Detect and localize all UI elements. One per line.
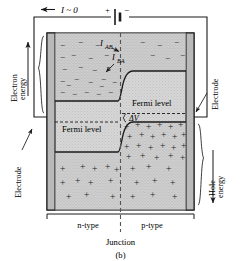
electrode-bar-right bbox=[186, 33, 194, 210]
svg-text:−: − bbox=[180, 50, 185, 60]
svg-text:−: − bbox=[108, 87, 113, 97]
svg-text:+: + bbox=[60, 164, 65, 174]
current-ab-subscript: AB bbox=[104, 43, 113, 50]
svg-text:+: + bbox=[84, 190, 89, 200]
svg-text:+: + bbox=[130, 164, 135, 174]
svg-text:−: − bbox=[72, 89, 77, 99]
svg-text:+: + bbox=[180, 153, 185, 163]
svg-text:+: + bbox=[170, 178, 175, 188]
svg-text:+: + bbox=[75, 176, 80, 186]
battery-plus-label: + bbox=[105, 6, 110, 15]
svg-text:+: + bbox=[150, 132, 155, 142]
svg-text:+: + bbox=[148, 143, 153, 153]
svg-text:+: + bbox=[110, 192, 115, 202]
svg-text:−: − bbox=[78, 62, 83, 72]
svg-text:+: + bbox=[135, 120, 140, 130]
svg-text:+: + bbox=[127, 132, 132, 142]
svg-text:+: + bbox=[160, 141, 165, 151]
svg-text:+: + bbox=[80, 162, 85, 172]
svg-text:+: + bbox=[139, 130, 144, 140]
electrode-label-left: Electrode bbox=[14, 166, 23, 198]
svg-text:+: + bbox=[114, 165, 119, 175]
svg-text:+: + bbox=[92, 164, 97, 174]
electrode-label-right: Electrode bbox=[211, 78, 220, 110]
svg-text:+: + bbox=[150, 190, 155, 200]
svg-text:+: + bbox=[152, 176, 157, 186]
svg-text:−: − bbox=[165, 53, 170, 63]
svg-text:−: − bbox=[71, 50, 76, 60]
svg-text:−: − bbox=[60, 40, 65, 50]
svg-text:+: + bbox=[126, 152, 131, 162]
svg-text:−: − bbox=[174, 37, 179, 47]
electrode-bar-left bbox=[47, 33, 55, 210]
svg-text:+: + bbox=[130, 192, 135, 202]
svg-text:−: − bbox=[150, 50, 155, 60]
svg-text:−: − bbox=[66, 80, 71, 90]
svg-text:−: − bbox=[157, 40, 162, 50]
svg-text:+: + bbox=[60, 178, 65, 188]
hole-energy-label-line2: energy bbox=[216, 175, 225, 198]
svg-text:+: + bbox=[178, 120, 183, 130]
svg-text:+: + bbox=[105, 162, 110, 172]
svg-text:−: − bbox=[106, 62, 111, 72]
current-ba-subscript: BA bbox=[117, 57, 125, 64]
electron-energy-bracket bbox=[28, 36, 44, 113]
figure-caption: (b) bbox=[115, 250, 125, 260]
svg-text:+: + bbox=[146, 162, 151, 172]
region-label-p: p-type bbox=[141, 221, 163, 230]
svg-text:+: + bbox=[124, 122, 129, 132]
svg-text:−: − bbox=[104, 50, 109, 60]
svg-text:−: − bbox=[88, 53, 93, 63]
fermi-level-label-n: Fermi level bbox=[62, 124, 102, 134]
svg-text:−: − bbox=[140, 37, 145, 47]
battery-minus-label: − bbox=[124, 5, 129, 15]
svg-text:+: + bbox=[88, 178, 93, 188]
svg-text:−: − bbox=[84, 87, 89, 97]
pn-junction-band-diagram: + − I ~ 0 ΔV Fermi level Fermi level − −… bbox=[0, 0, 241, 261]
svg-text:+: + bbox=[157, 120, 162, 130]
svg-text:+: + bbox=[140, 151, 145, 161]
svg-text:+: + bbox=[161, 130, 166, 140]
current-label-top: I ~ 0 bbox=[60, 5, 78, 15]
fermi-level-label-p: Fermi level bbox=[132, 98, 172, 108]
svg-text:−: − bbox=[60, 52, 65, 62]
electrode-right-annotation bbox=[196, 93, 207, 112]
svg-text:−: − bbox=[74, 74, 79, 84]
svg-text:−: − bbox=[60, 76, 65, 86]
svg-text:+: + bbox=[146, 122, 151, 132]
svg-text:+: + bbox=[181, 130, 186, 140]
svg-text:+: + bbox=[136, 141, 141, 151]
svg-text:−: − bbox=[92, 65, 97, 75]
svg-text:−: − bbox=[78, 37, 83, 47]
svg-text:+: + bbox=[134, 178, 139, 188]
svg-text:−: − bbox=[60, 87, 65, 97]
electron-energy-label-line2: energy bbox=[18, 77, 27, 100]
region-label-n: n-type bbox=[77, 221, 99, 230]
svg-text:+: + bbox=[168, 122, 173, 132]
svg-text:−: − bbox=[88, 77, 93, 87]
svg-text:+: + bbox=[154, 153, 159, 163]
svg-text:+: + bbox=[124, 142, 129, 152]
electrode-left-annotation bbox=[22, 129, 32, 150]
svg-text:+: + bbox=[166, 164, 171, 174]
svg-text:+: + bbox=[181, 141, 186, 151]
svg-text:+: + bbox=[66, 192, 71, 202]
junction-label: Junction bbox=[106, 237, 136, 247]
svg-text:+: + bbox=[172, 192, 177, 202]
svg-text:+: + bbox=[172, 132, 177, 142]
svg-text:−: − bbox=[62, 64, 67, 74]
battery-symbol bbox=[115, 9, 120, 25]
svg-text:−: − bbox=[99, 81, 104, 91]
svg-text:−: − bbox=[112, 77, 117, 87]
svg-text:+: + bbox=[168, 151, 173, 161]
svg-text:+: + bbox=[108, 176, 113, 186]
